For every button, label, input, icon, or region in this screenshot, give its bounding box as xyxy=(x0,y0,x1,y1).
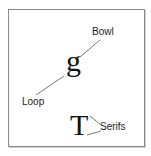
serifs-bottom-leader-line xyxy=(87,131,101,135)
serifs-label: Serifs xyxy=(100,122,126,132)
bowl-label: Bowl xyxy=(92,27,114,37)
g-letterform: g xyxy=(66,46,81,76)
loop-leader-line xyxy=(36,76,64,95)
bowl-leader-line xyxy=(80,40,100,57)
t-letterform: T xyxy=(70,110,88,140)
loop-label: Loop xyxy=(22,97,44,107)
